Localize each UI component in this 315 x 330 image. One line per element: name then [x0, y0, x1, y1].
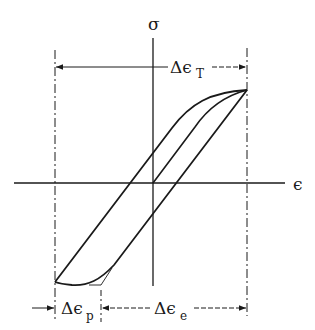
plastic-strain-label: Δϵ p [61, 298, 94, 323]
unloading-curve [55, 90, 247, 285]
hysteresis-loop-diagram: σ ϵ Δϵ T Δϵ p Δϵ e [0, 0, 315, 330]
elastic-strain-label: Δϵ e [154, 298, 187, 323]
inner-branch-curve [153, 90, 247, 183]
strain-axis-label: ϵ [293, 174, 303, 194]
svg-text:Δϵ: Δϵ [170, 57, 192, 77]
total-strain-label: Δϵ T [170, 57, 204, 81]
svg-text:e: e [180, 309, 187, 323]
svg-text:T: T [196, 67, 204, 81]
loading-curve [55, 90, 247, 282]
svg-text:Δϵ: Δϵ [154, 298, 176, 318]
svg-text:Δϵ: Δϵ [61, 298, 83, 318]
svg-text:p: p [86, 309, 94, 323]
stress-axis-label: σ [148, 14, 160, 34]
